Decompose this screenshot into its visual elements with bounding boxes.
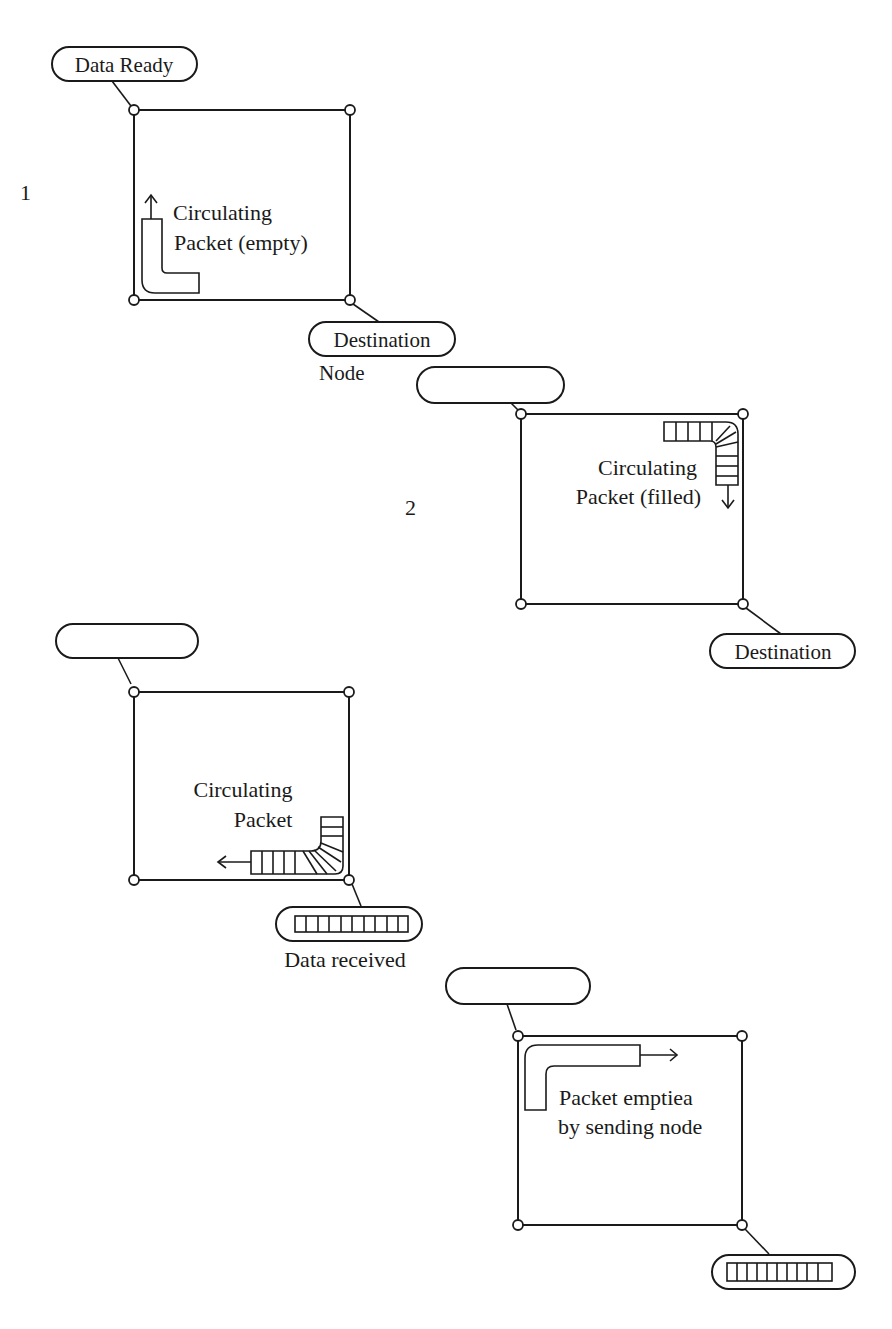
ring-node [129, 875, 139, 885]
top-tag [446, 968, 590, 1004]
ring-node [516, 599, 526, 609]
packet-label: Circulating [173, 200, 272, 225]
bottom-tag-data [712, 1255, 855, 1289]
received-data-bits [295, 916, 408, 932]
tag-connector [353, 304, 379, 322]
ring-node [737, 1031, 747, 1041]
packet-label: by sending node [558, 1114, 702, 1139]
packet-label: Circulating [598, 455, 697, 480]
top-tag-label: Data Ready [75, 53, 174, 77]
packet-label: Packet (empty) [174, 230, 308, 255]
ring-node [513, 1031, 523, 1041]
ring-node [344, 687, 354, 697]
packet-label: Packet (filled) [576, 484, 701, 509]
ring-node [345, 105, 355, 115]
stage-number: 1 [20, 180, 31, 205]
stage-3: Circulating Packet Data received [56, 624, 422, 972]
top-tag [56, 624, 198, 658]
tag-connector [507, 1004, 516, 1030]
bottom-tag-label: Destination [735, 640, 832, 664]
sent-data-bits [727, 1263, 832, 1281]
bottom-caption: Data received [284, 947, 406, 972]
bottom-tag-data [276, 907, 422, 941]
tag-connector [745, 1229, 769, 1254]
tag-connector [511, 403, 518, 410]
ring-node [737, 1220, 747, 1230]
packet-label: Packet [234, 807, 293, 832]
packet-label: Circulating [194, 777, 293, 802]
ring-node [513, 1220, 523, 1230]
ring-node [738, 409, 748, 419]
ring-node [129, 105, 139, 115]
bottom-tag-label: Destination [334, 328, 431, 352]
stage-1: 1 Data Ready Circulating Packet (empty) … [20, 47, 455, 385]
tag-connector [118, 658, 131, 684]
tag-connector [746, 608, 781, 634]
stage-number: 2 [405, 495, 416, 520]
top-tag [417, 367, 564, 403]
ring-node [129, 687, 139, 697]
ring-node [344, 875, 354, 885]
ring-node [516, 409, 526, 419]
packet-label: Packet emptiea [559, 1085, 693, 1110]
ring-network-diagram: 1 Data Ready Circulating Packet (empty) … [0, 0, 892, 1329]
tag-connector [112, 81, 131, 106]
tag-connector [352, 884, 361, 906]
bottom-tag-sublabel: Node [319, 361, 365, 385]
stage-2: 2 Circulating Packet (filled) Destin [405, 367, 855, 668]
ring-node [129, 295, 139, 305]
ring [521, 414, 743, 604]
stage-4: Packet emptiea by sending node [446, 968, 855, 1289]
